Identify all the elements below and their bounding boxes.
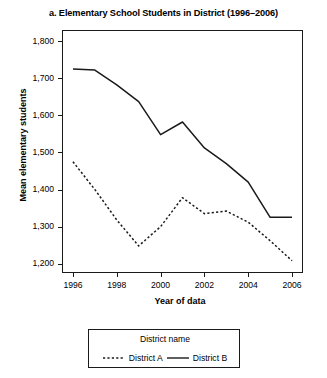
series-line xyxy=(73,69,292,217)
x-tick-label: 1998 xyxy=(97,281,137,290)
y-tick-label: 1,600 xyxy=(10,111,54,120)
legend-entries: District ADistrict B xyxy=(89,350,241,366)
y-tick-label: 1,500 xyxy=(10,148,54,157)
x-tick-label: 2002 xyxy=(184,281,224,290)
x-tick-mark xyxy=(161,273,162,277)
legend-label: District B xyxy=(193,353,227,363)
solid-line-icon xyxy=(167,354,189,362)
y-tick-label: 1,800 xyxy=(10,37,54,46)
legend: District name District ADistrict B xyxy=(88,329,240,368)
x-tick-mark xyxy=(248,273,249,277)
chart-figure: a. Elementary School Students in Distric… xyxy=(0,0,327,378)
legend-label: District A xyxy=(129,353,163,363)
x-tick-label: 2004 xyxy=(228,281,268,290)
x-tick-mark xyxy=(117,273,118,277)
legend-title: District name xyxy=(89,334,241,344)
y-tick-label: 1,200 xyxy=(10,259,54,268)
chart-title: a. Elementary School Students in Distric… xyxy=(0,8,327,18)
x-tick-label: 2006 xyxy=(272,281,312,290)
y-tick-label: 1,400 xyxy=(10,185,54,194)
y-tick-label: 1,300 xyxy=(10,222,54,231)
dashed-line-icon xyxy=(103,354,125,362)
x-axis-title: Year of data xyxy=(55,296,305,306)
x-tick-label: 2000 xyxy=(141,281,181,290)
series-line xyxy=(73,162,292,261)
x-tick-mark xyxy=(204,273,205,277)
x-tick-label: 1996 xyxy=(53,281,93,290)
legend-entry: District B xyxy=(167,353,227,363)
plot-lines xyxy=(62,30,303,273)
x-tick-mark xyxy=(292,273,293,277)
legend-entry: District A xyxy=(103,353,163,363)
y-tick-label: 1,700 xyxy=(10,74,54,83)
y-axis-title: Mean elementary students xyxy=(18,60,28,230)
x-tick-mark xyxy=(73,273,74,277)
